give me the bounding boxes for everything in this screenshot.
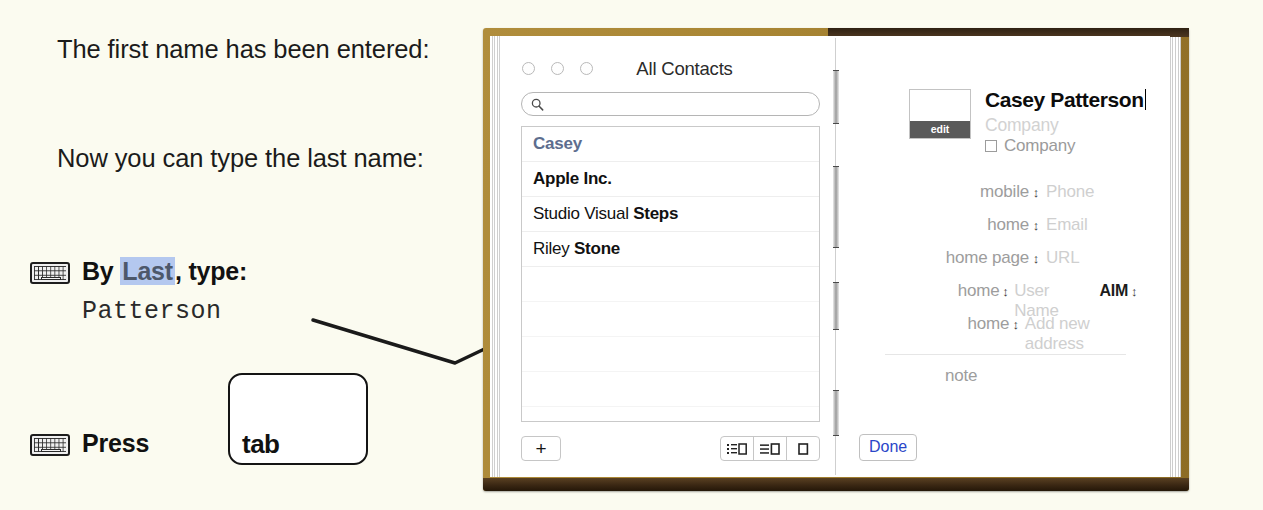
field-home-page[interactable]: home page ↕ URL xyxy=(837,248,1140,268)
book-illustration: All Contacts Casey Apple Inc. Studio Vis… xyxy=(483,28,1189,491)
add-contact-button[interactable]: + xyxy=(521,436,561,461)
list-item-empty xyxy=(522,407,819,422)
step-type-suffix: , type: xyxy=(175,257,247,285)
step-type-text: By Last, type: xyxy=(82,256,247,287)
field-mobile[interactable]: mobile ↕ Phone xyxy=(837,182,1140,202)
contact-first-name: Studio Visual xyxy=(533,204,633,223)
field-label[interactable]: home xyxy=(837,281,999,301)
contact-photo-well[interactable]: edit xyxy=(909,89,971,139)
contact-name-value: Casey Patterson xyxy=(985,88,1144,111)
done-button[interactable]: Done xyxy=(859,434,917,461)
field-value[interactable]: Phone xyxy=(1046,182,1094,202)
list-item-empty xyxy=(522,267,819,302)
view-mode-switch[interactable] xyxy=(720,436,820,461)
field-value[interactable]: Email xyxy=(1046,215,1088,235)
field-label[interactable]: home page xyxy=(837,248,1029,268)
step-type-last-name: By Last, type: xyxy=(30,256,247,287)
contact-last-name: Steps xyxy=(633,204,678,223)
search-icon xyxy=(531,98,544,111)
contact-name-field[interactable]: Casey Patterson xyxy=(985,88,1146,112)
stepper-icon[interactable]: ↕ xyxy=(999,285,1011,298)
tab-key-label: tab xyxy=(242,429,280,460)
book-bottom-edge xyxy=(483,478,1189,491)
field-value[interactable]: Add new address xyxy=(1025,314,1140,354)
step-press-label: Press xyxy=(82,428,149,459)
company-checkbox-label: Company xyxy=(1004,136,1075,156)
note-label[interactable]: note xyxy=(945,366,977,386)
field-label[interactable]: home xyxy=(837,314,1009,334)
field-value[interactable]: URL xyxy=(1046,248,1079,268)
stepper-icon[interactable]: ↕ xyxy=(1009,318,1022,331)
field-email[interactable]: home ↕ Email xyxy=(837,215,1140,235)
note-divider xyxy=(885,354,1126,355)
stepper-icon[interactable]: ↕ xyxy=(1029,186,1043,199)
typed-value-patterson: Patterson xyxy=(82,297,222,326)
text-cursor xyxy=(1145,89,1147,110)
list-detail-view-icon[interactable] xyxy=(721,437,754,460)
stepper-icon[interactable]: ↕ xyxy=(1029,252,1043,265)
highlighted-field-name: Last xyxy=(120,257,175,285)
instruction-paragraph-1: The first name has been entered: xyxy=(57,33,457,66)
field-label[interactable]: home xyxy=(837,215,1029,235)
im-service-stepper-icon[interactable]: ↕ xyxy=(1128,285,1140,298)
contact-first-name: Casey xyxy=(533,134,582,153)
contact-card: edit Casey Patterson Company Company mob… xyxy=(837,36,1170,477)
contact-last-name: Apple Inc. xyxy=(533,169,612,188)
keyboard-icon xyxy=(30,262,70,284)
search-input[interactable] xyxy=(521,92,820,116)
company-checkbox-row[interactable]: Company xyxy=(985,136,1075,156)
im-service-label[interactable]: AIM xyxy=(1099,282,1128,300)
list-item[interactable]: Riley Stone xyxy=(522,232,819,267)
stepper-icon[interactable]: ↕ xyxy=(1029,219,1043,232)
field-label[interactable]: mobile xyxy=(837,182,1029,202)
list-item[interactable]: Casey xyxy=(522,127,819,162)
contacts-window: All Contacts Casey Apple Inc. Studio Vis… xyxy=(500,36,837,477)
tab-key-cap: tab xyxy=(228,373,368,465)
card-only-view-icon[interactable] xyxy=(787,437,819,460)
list-item-empty xyxy=(522,302,819,337)
contact-last-name: Stone xyxy=(574,239,620,258)
list-item-empty xyxy=(522,372,819,407)
list-item[interactable]: Studio Visual Steps xyxy=(522,197,819,232)
step-press-tab: Press xyxy=(30,428,149,459)
contact-first-name: Riley xyxy=(533,239,574,258)
company-checkbox[interactable] xyxy=(985,140,997,152)
compact-list-view-icon[interactable] xyxy=(754,437,787,460)
keyboard-icon xyxy=(30,434,70,456)
list-item-empty xyxy=(522,337,819,372)
photo-edit-button[interactable]: edit xyxy=(910,121,970,138)
instruction-paragraph-2: Now you can type the last name: xyxy=(57,142,457,175)
window-title: All Contacts xyxy=(500,58,837,80)
step-type-prefix: By xyxy=(82,257,120,285)
list-item[interactable]: Apple Inc. xyxy=(522,162,819,197)
field-address[interactable]: home ↕ Add new address xyxy=(837,314,1140,354)
tutorial-figure: The first name has been entered: Now you… xyxy=(0,0,1263,510)
contact-list[interactable]: Casey Apple Inc. Studio Visual Steps Ril… xyxy=(521,126,820,422)
company-placeholder[interactable]: Company xyxy=(985,115,1059,136)
